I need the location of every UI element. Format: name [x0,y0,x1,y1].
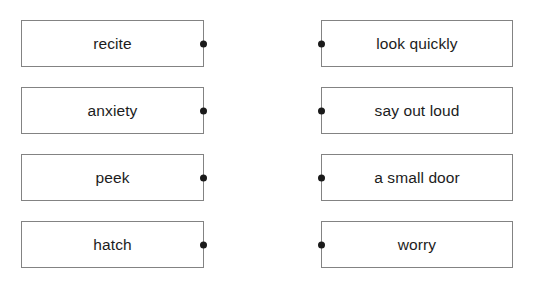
term-box-recite[interactable]: recite [21,20,204,67]
definition-box-say-out-loud[interactable]: say out loud [321,87,513,134]
list-item: hatch [21,221,204,268]
connector-dot-icon[interactable] [200,174,207,181]
connector-dot-icon[interactable] [200,40,207,47]
connector-dot-icon[interactable] [200,107,207,114]
definition-box-worry[interactable]: worry [321,221,513,268]
definitions-column: look quickly say out loud a small door w… [321,20,513,268]
terms-column: recite anxiety peek hatch [21,20,204,268]
term-box-peek[interactable]: peek [21,154,204,201]
term-box-anxiety[interactable]: anxiety [21,87,204,134]
connector-dot-icon[interactable] [200,241,207,248]
list-item: anxiety [21,87,204,134]
list-item: say out loud [321,87,513,134]
term-box-hatch[interactable]: hatch [21,221,204,268]
definition-label: look quickly [376,36,457,52]
definition-label: worry [398,237,436,253]
term-label: anxiety [88,103,138,119]
term-label: peek [95,170,129,186]
connector-dot-icon[interactable] [318,174,325,181]
definition-label: say out loud [375,103,460,119]
definition-label: a small door [374,170,460,186]
list-item: peek [21,154,204,201]
connector-dot-icon[interactable] [318,40,325,47]
matching-exercise: recite anxiety peek hatch [0,0,533,289]
connector-dot-icon[interactable] [318,107,325,114]
term-label: hatch [93,237,131,253]
list-item: worry [321,221,513,268]
term-label: recite [93,36,132,52]
connector-dot-icon[interactable] [318,241,325,248]
list-item: a small door [321,154,513,201]
list-item: look quickly [321,20,513,67]
definition-box-a-small-door[interactable]: a small door [321,154,513,201]
definition-box-look-quickly[interactable]: look quickly [321,20,513,67]
list-item: recite [21,20,204,67]
